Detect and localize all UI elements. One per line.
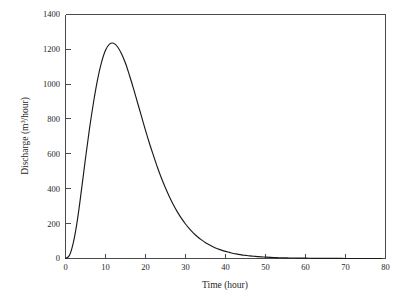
y-axis-title: Discharge (m3/hour) (19, 97, 31, 175)
x-tick-label-40: 40 (221, 262, 230, 272)
y-tick-label-400: 400 (47, 184, 60, 194)
x-tick-label-30: 30 (181, 262, 190, 272)
x-tick-label-50: 50 (261, 262, 270, 272)
y-tick-label-800: 800 (47, 114, 60, 124)
svg-text:Discharge (m3/hour): Discharge (m3/hour) (19, 97, 31, 175)
x-tick-label-60: 60 (301, 262, 310, 272)
y-tick-label-600: 600 (47, 149, 60, 159)
y-tick-label-200: 200 (47, 219, 60, 229)
x-tick-label-20: 20 (141, 262, 150, 272)
y-tick-label-1400: 1400 (43, 9, 60, 19)
y-tick-label-1000: 1000 (43, 79, 60, 89)
chart-figure: 0 200 400 600 800 1000 1200 1400 0 10 20 (0, 0, 407, 303)
x-tick-label-0: 0 (63, 262, 67, 272)
y-tick-label-1200: 1200 (43, 44, 60, 54)
y-axis-title-post: /hour) (20, 97, 31, 120)
y-tick-label-0: 0 (56, 253, 60, 263)
x-axis-title: Time (hour) (202, 280, 248, 291)
x-tick-label-10: 10 (101, 262, 110, 272)
y-axis-title-pre: Discharge (m (20, 123, 31, 175)
x-tick-label-70: 70 (341, 262, 350, 272)
hydrograph-chart: 0 200 400 600 800 1000 1200 1400 0 10 20 (0, 0, 407, 303)
x-tick-label-80: 80 (381, 262, 390, 272)
